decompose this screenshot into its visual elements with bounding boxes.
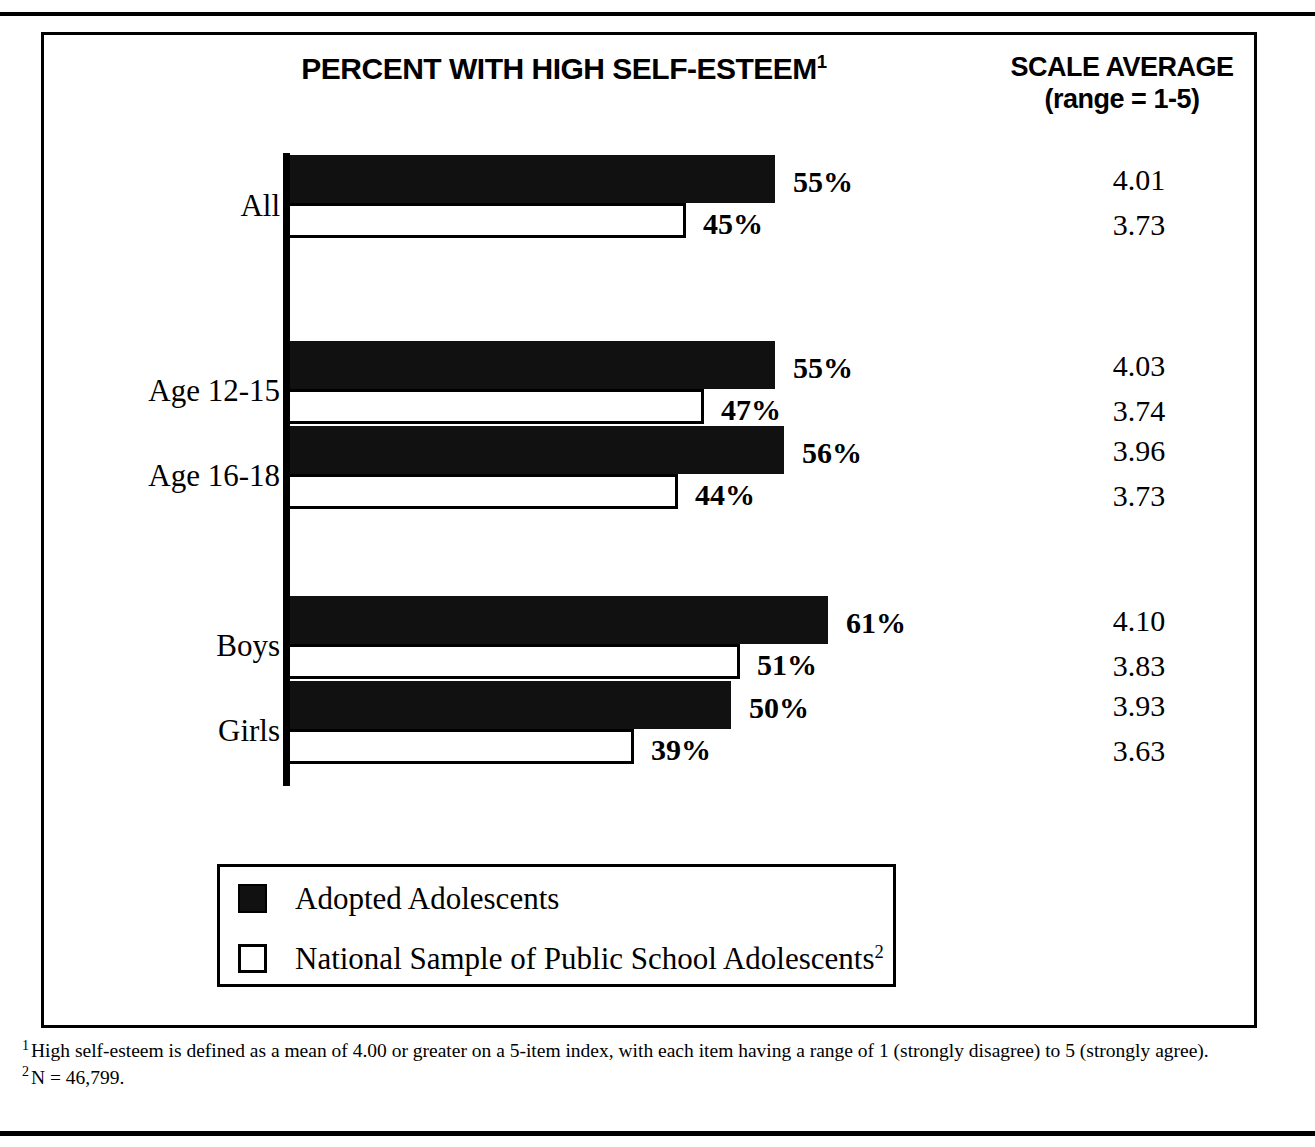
footnote-2-text: N = 46,799. [31,1067,124,1088]
value-label-age-16-18-adopted: 56% [802,438,862,468]
footnote-2-marker: 2 [22,1063,29,1079]
value-label-boys-adopted: 61% [846,608,906,638]
scale-average-boys-national: 3.83 [1044,651,1234,681]
value-label-all-adopted: 55% [793,167,853,197]
value-label-boys-national: 51% [757,650,817,680]
page-bottom-rule [0,1131,1315,1136]
scale-average-age-16-18-national: 3.73 [1044,481,1234,511]
footnotes: 1High self-esteem is defined as a mean o… [22,1038,1292,1092]
bar-age-12-15-adopted [290,341,775,389]
scale-average-all-national: 3.73 [1044,210,1234,240]
scale-average-age-16-18-adopted: 3.96 [1044,436,1234,466]
bar-age-16-18-adopted [290,426,784,474]
legend-label-national-text: National Sample of Public School Adolesc… [295,941,874,976]
legend-swatch-filled-icon [238,884,267,913]
chart-frame: PERCENT WITH HIGH SELF-ESTEEM1 SCALE AVE… [41,32,1257,1028]
bar-age-12-15-national [290,389,704,424]
category-label-girls: Girls [218,715,280,746]
bar-all-national [290,203,686,238]
scale-average-boys-adopted: 4.10 [1044,606,1234,636]
category-label-all: All [240,190,280,221]
bar-girls-national [290,729,634,764]
value-label-all-national: 45% [703,209,763,239]
category-label-boys: Boys [216,630,280,661]
bar-boys-adopted [290,596,828,644]
value-label-age-12-15-national: 47% [721,395,781,425]
scale-average-girls-adopted: 3.93 [1044,691,1234,721]
value-label-age-12-15-adopted: 55% [793,353,853,383]
scale-average-age-12-15-national: 3.74 [1044,396,1234,426]
footnote-1-text: High self-esteem is defined as a mean of… [31,1040,1209,1061]
footnote-1-marker: 1 [22,1037,29,1053]
legend-label-national: National Sample of Public School Adolesc… [295,943,884,974]
value-label-age-16-18-national: 44% [695,480,755,510]
y-axis-line [283,153,290,786]
value-label-girls-national: 39% [651,735,711,765]
scale-average-girls-national: 3.63 [1044,736,1234,766]
legend-swatch-outlined-icon [238,944,267,973]
bar-age-16-18-national [290,474,678,509]
footnote-2: 2N = 46,799. [22,1065,1292,1092]
scale-average-age-12-15-adopted: 4.03 [1044,351,1234,381]
value-label-girls-adopted: 50% [749,693,809,723]
category-label-age-16-18: Age 16-18 [148,460,280,491]
footnote-1: 1High self-esteem is defined as a mean o… [22,1038,1292,1065]
legend-label-adopted: Adopted Adolescents [295,883,559,914]
scale-average-all-adopted: 4.01 [1044,165,1234,195]
legend-footnote-marker: 2 [874,941,883,962]
bar-girls-adopted [290,681,731,729]
legend-item-national: National Sample of Public School Adolesc… [238,943,884,974]
legend: Adopted Adolescents National Sample of P… [217,864,896,987]
category-label-age-12-15: Age 12-15 [148,375,280,406]
legend-item-adopted: Adopted Adolescents [238,883,559,914]
bar-boys-national [290,644,740,679]
page-top-rule [0,12,1315,16]
bar-all-adopted [290,155,775,203]
